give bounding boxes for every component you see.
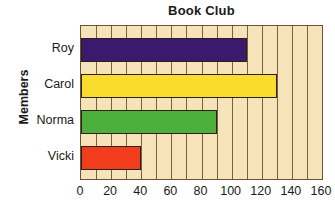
x-tick-label: 0 [77,184,84,198]
bars-layer [81,26,322,179]
x-tick-label: 20 [103,184,117,198]
x-tick-label: 100 [220,184,241,198]
category-label-roy: Roy [18,41,74,55]
bar-chart: Book Club Members Roy Carol Norma Vicki … [0,0,335,221]
plot-area [80,25,323,180]
chart-title: Book Club [80,3,323,18]
x-tick-label: 120 [250,184,271,198]
x-tick-label: 140 [280,184,301,198]
x-tick-label: 40 [133,184,147,198]
x-tick-label: 80 [194,184,208,198]
bar-carol [81,74,277,98]
category-axis-labels: Roy Carol Norma Vicki [18,25,76,180]
bar-roy [81,38,247,62]
category-label-norma: Norma [18,113,74,127]
x-tick-label: 60 [163,184,177,198]
x-axis-tick-labels: 020406080100120140160 [80,184,323,206]
x-tick-label: 160 [311,184,332,198]
bar-vicki [81,146,141,170]
category-label-carol: Carol [18,77,74,91]
bar-norma [81,110,217,134]
category-label-vicki: Vicki [18,149,74,163]
